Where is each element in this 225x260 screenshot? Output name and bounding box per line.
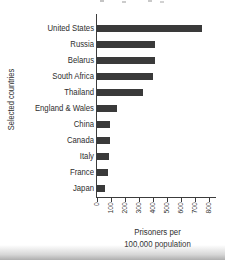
x-tick-label: 800 [204, 202, 214, 225]
category-label: Russia [13, 39, 94, 49]
cropped-title-remnant [100, 0, 104, 2]
bar [97, 89, 143, 96]
x-axis-title-line1: Prisoners per [100, 227, 215, 239]
x-tick-label: 700 [190, 202, 200, 225]
bar [97, 41, 155, 48]
bar [97, 73, 153, 80]
bar [97, 137, 110, 144]
x-axis-line [96, 197, 216, 198]
x-tick-label: 500 [162, 202, 172, 225]
x-tick-label: 400 [148, 202, 158, 225]
bar [97, 25, 202, 32]
y-axis-title: Selected countries [6, 60, 17, 139]
category-label: France [13, 167, 94, 177]
scan-shadow [0, 245, 225, 260]
x-tick-label: 600 [176, 202, 186, 225]
x-tick-label: 100 [106, 202, 116, 225]
category-label: China [13, 119, 94, 129]
category-label: United States [13, 23, 94, 33]
bar [97, 185, 105, 192]
scanned-bar-chart: United StatesRussiaBelarusSouth AfricaTh… [0, 0, 225, 260]
x-tick-label: 200 [120, 202, 130, 225]
category-label: South Africa [13, 71, 94, 81]
x-tick-label: 300 [134, 202, 144, 225]
bar [97, 105, 117, 112]
category-label: Italy [13, 151, 94, 161]
category-label: England & Wales [13, 103, 94, 113]
bar [97, 57, 155, 64]
bar [97, 121, 110, 128]
bar [97, 169, 108, 176]
x-tick-label: 0 [92, 202, 102, 225]
category-label: Japan [13, 183, 94, 193]
category-label: Belarus [13, 55, 94, 65]
category-label: Thailand [13, 87, 94, 97]
bar [97, 153, 109, 160]
category-label: Canada [13, 135, 94, 145]
